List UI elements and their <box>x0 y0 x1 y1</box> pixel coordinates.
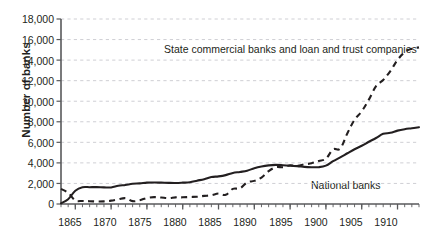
x-major-ticks-group <box>75 204 397 210</box>
series-line-national-banks <box>61 127 419 203</box>
plot-area <box>0 0 425 249</box>
gridlines-group <box>61 19 419 183</box>
series-line-state-banks <box>61 47 419 201</box>
bank-count-line-chart: Number of banks 18,000 16,000 14,000 12,… <box>0 0 425 249</box>
